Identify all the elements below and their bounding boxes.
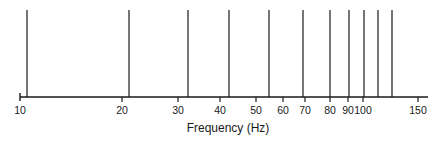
x-axis-tick-label: 90 [342, 104, 354, 116]
x-axis-tick-label: 40 [214, 104, 226, 116]
x-axis: 102030405060708090100150 [14, 93, 428, 116]
x-axis-tick-label: 60 [277, 104, 289, 116]
x-axis-title: Frequency (Hz) [187, 121, 270, 135]
x-axis-tick-label: 30 [172, 104, 184, 116]
x-axis-tick-label: 20 [116, 104, 128, 116]
frequency-spectrum-chart: 102030405060708090100150 Frequency (Hz) [0, 0, 441, 141]
x-axis-tick-labels: 102030405060708090100150 [14, 104, 427, 116]
spectral-lines [27, 10, 392, 97]
x-axis-tick-label: 100 [354, 104, 372, 116]
x-axis-tick-label: 10 [14, 104, 26, 116]
x-axis-tick-label: 150 [409, 104, 427, 116]
x-axis-tick-label: 70 [299, 104, 311, 116]
x-axis-tick-label: 50 [250, 104, 262, 116]
x-axis-tick-label: 80 [324, 104, 336, 116]
